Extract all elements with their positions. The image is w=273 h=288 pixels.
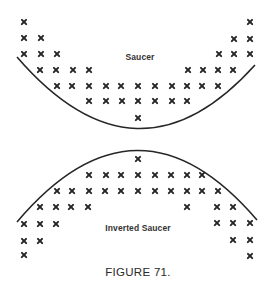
figure-71: Saucer Inverted Saucer FIGURE 71. [0,0,273,288]
figure-caption: FIGURE 71. [105,266,171,278]
curve-layer [0,0,273,288]
saucer-label: Saucer [126,52,155,62]
inverted-saucer-label: Inverted Saucer [105,223,170,233]
